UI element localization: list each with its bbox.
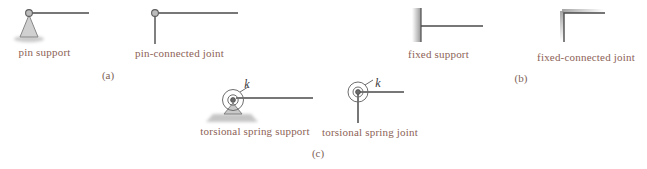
- spring-constant-symbol-joint: k: [375, 76, 380, 91]
- pin-connected-joint-diagram: [152, 10, 238, 44]
- pin-circle: [26, 10, 33, 17]
- pin-circle: [152, 10, 159, 17]
- caption-a: (a): [102, 69, 114, 81]
- supports-and-joints-figure: pin support pin-connected joint (a) fixe…: [0, 0, 647, 169]
- fixed-support-label: fixed support: [408, 48, 469, 60]
- pin-support-diagram: [14, 10, 89, 43]
- torsional-spring-support-label: torsional spring support: [200, 125, 309, 137]
- fixed-connected-joint-diagram: [560, 9, 605, 42]
- torsional-spring-joint-label: torsional spring joint: [322, 126, 418, 138]
- fixed-support-diagram: [412, 8, 483, 42]
- pin-circle: [356, 90, 361, 95]
- spring-end-line: [365, 80, 373, 85]
- spring-constant-symbol-support: k: [244, 77, 249, 92]
- corner-member-lines: [564, 13, 605, 42]
- wall-shading: [412, 8, 421, 42]
- support-triangle: [20, 15, 38, 37]
- pin-connected-joint-label: pin-connected joint: [135, 47, 224, 59]
- pin-support-label: pin support: [18, 46, 70, 58]
- fixed-connected-joint-label: fixed-connected joint: [537, 51, 635, 63]
- figure-drawing: [0, 0, 647, 169]
- pin-circle: [231, 98, 236, 103]
- caption-b: (b): [515, 72, 528, 84]
- torsional-spring-support-diagram: [206, 87, 313, 122]
- ground-shading: [206, 114, 258, 122]
- caption-c: (c): [312, 147, 324, 159]
